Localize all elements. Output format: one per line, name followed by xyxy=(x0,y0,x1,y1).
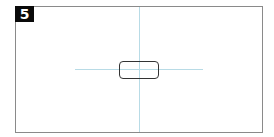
panel-number-badge: 5 xyxy=(15,6,34,22)
rounded-rectangle-shape xyxy=(119,61,159,79)
